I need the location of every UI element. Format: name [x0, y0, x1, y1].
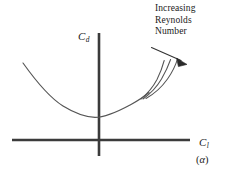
x-axis-alt-label: (α) [196, 154, 209, 165]
x-axis-label: Cl [199, 136, 209, 150]
y-axis-label: Cd [78, 30, 89, 44]
y-axis-label-symbol: C [78, 30, 85, 42]
increasing-reynolds-annotation: Increasing Reynolds Number [155, 3, 227, 38]
increasing-reynolds-arrow-head [177, 58, 187, 66]
main-polar-curve [23, 63, 149, 117]
figure-container: Increasing Reynolds Number Cd Cl (α) [0, 0, 230, 179]
y-axis-label-subscript: d [86, 35, 90, 44]
x-axis-alt-close-paren: ) [205, 154, 209, 165]
x-axis-label-symbol: C [199, 136, 206, 148]
x-axis-label-subscript: l [207, 141, 209, 150]
